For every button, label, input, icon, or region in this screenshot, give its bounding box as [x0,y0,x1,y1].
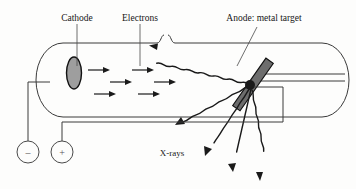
negative-terminal-label: – [25,147,32,158]
cathode-disc [67,57,82,89]
xray-tube-diagram: – + Cathode Electrons Anode: metal targe… [0,0,356,189]
cathode-label: Cathode [61,13,93,23]
xrays-label: X-rays [160,148,185,158]
electrons-label: Electrons [122,13,158,23]
canvas-background [0,0,356,189]
positive-terminal[interactable]: + [51,141,73,163]
positive-terminal-label: + [59,147,65,158]
anode-label: Anode: metal target [226,13,302,23]
diagram-canvas: – + Cathode Electrons Anode: metal targe… [0,0,356,189]
negative-terminal[interactable]: – [17,141,39,163]
